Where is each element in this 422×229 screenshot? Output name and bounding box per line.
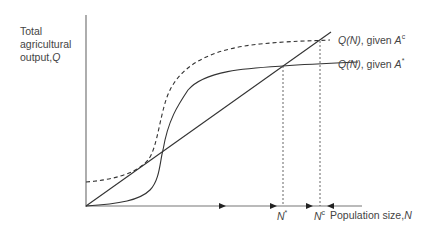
x-label-text: Population size, [330, 209, 404, 221]
arrow-right-icon [306, 203, 313, 209]
arrow-right-icon [270, 203, 277, 209]
curve-label-a-star: Q(N), given A* [338, 57, 404, 70]
curve-sup: c [402, 33, 406, 40]
curve-a-c [86, 40, 330, 182]
curve-var: A [395, 34, 402, 46]
curve-sup: * [402, 57, 405, 64]
y-axis-label: Total agricultural output,Q [20, 25, 71, 64]
y-label-var: Q [52, 51, 60, 63]
n-c-label: Nc [314, 209, 325, 222]
curve-label-a-c: Q(N), given Ac [338, 33, 405, 46]
eq-var: N [277, 210, 285, 222]
n-star-label: N* [277, 209, 287, 222]
y-label-line3: output, [20, 51, 52, 63]
eq-var: N [314, 210, 322, 222]
eq-sup: * [285, 209, 288, 216]
curve-given: , given [361, 34, 395, 46]
curve-var: A [395, 58, 402, 70]
x-axis-label: Population size,N [330, 209, 412, 221]
curve-given: , given [361, 58, 395, 70]
curve-func: Q(N) [338, 34, 361, 46]
curve-a-star [86, 62, 358, 206]
arrow-right-icon [219, 203, 226, 209]
x-label-var: N [404, 209, 412, 221]
straight-line [86, 32, 331, 206]
y-label-line2: agricultural [20, 38, 71, 51]
y-label-line1: Total [20, 25, 71, 38]
eq-sup: c [322, 209, 326, 216]
curve-func: Q(N) [338, 58, 361, 70]
